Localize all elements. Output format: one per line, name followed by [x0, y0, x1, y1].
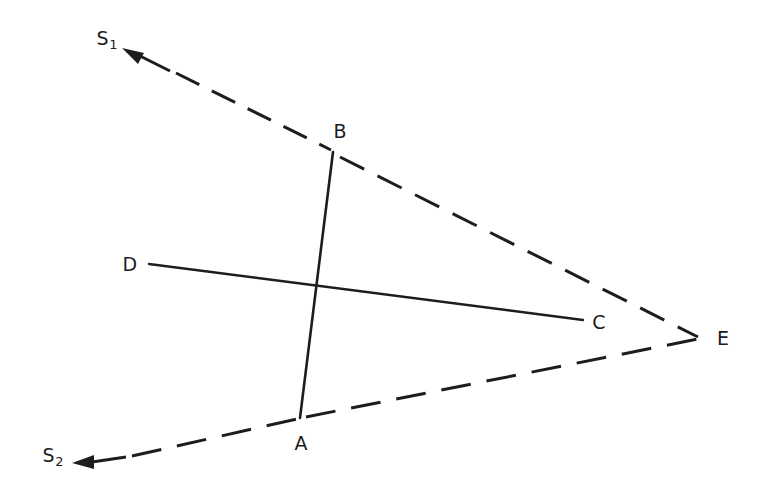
s2-arrow-shaft — [92, 457, 126, 462]
label-a: A — [294, 434, 307, 453]
s2-arrowhead-icon — [72, 455, 94, 469]
label-b: B — [333, 122, 346, 141]
label-s2-subscript: 2 — [55, 454, 63, 469]
label-d: D — [123, 255, 138, 274]
ray-s2-segment-a-to-e — [306, 339, 698, 417]
label-s1: S1 — [96, 29, 117, 51]
label-c: C — [592, 313, 605, 332]
label-s2: S2 — [42, 446, 63, 468]
segment-dc-solid — [149, 264, 583, 320]
label-s1-text: S — [96, 27, 108, 49]
ray-s1-group — [122, 48, 698, 337]
ray-s1-segment-b-to-e — [340, 157, 698, 337]
figure-canvas: S1 S2 B A D C E — [0, 0, 772, 501]
label-s1-subscript: 1 — [109, 37, 117, 52]
label-s2-text: S — [42, 444, 54, 466]
label-e: E — [717, 329, 729, 348]
ray-s2-segment-to-a — [132, 419, 297, 456]
ray-s1-segment-to-b — [176, 73, 331, 150]
diagram-svg — [0, 0, 772, 501]
s1-arrow-shaft — [138, 55, 170, 71]
ray-s2-group — [72, 339, 698, 469]
